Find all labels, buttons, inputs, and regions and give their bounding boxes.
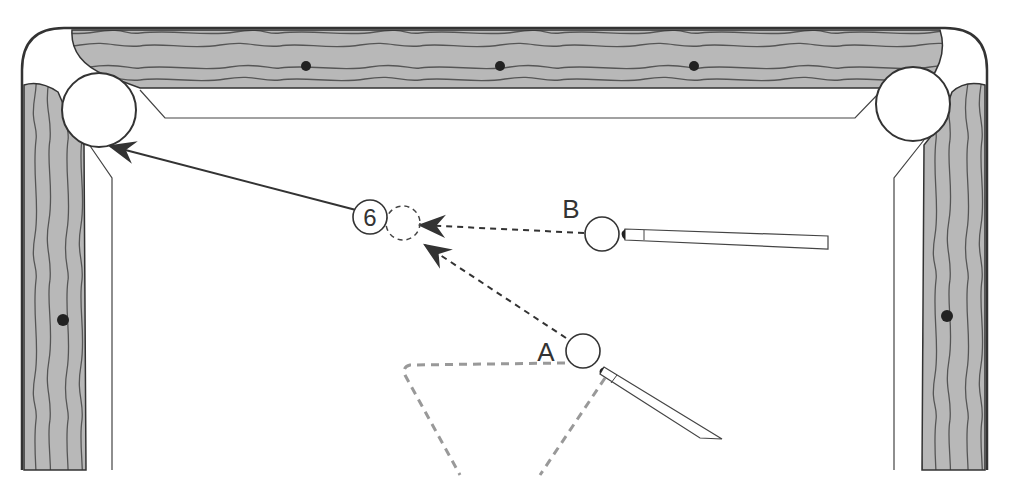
diamond-left [57, 314, 69, 326]
diamond-top-1 [301, 61, 311, 71]
top-left-pocket [62, 73, 136, 147]
top-right-pocket [876, 67, 950, 141]
top-rail [72, 30, 943, 88]
diamond-top-2 [495, 61, 505, 71]
pool-table-diagram: 6 B A [0, 0, 1009, 488]
svg-text:A: A [537, 337, 555, 367]
svg-text:6: 6 [363, 204, 376, 231]
diamond-right [941, 310, 953, 322]
left-rail [24, 84, 86, 470]
right-rail [922, 84, 985, 470]
table-frame [22, 28, 987, 470]
diamond-top-3 [689, 61, 699, 71]
svg-text:B: B [562, 194, 579, 224]
object-ball-6: 6 [353, 200, 387, 234]
